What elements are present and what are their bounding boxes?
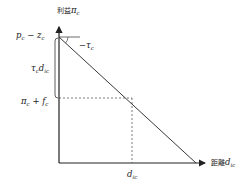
bracket <box>55 38 58 98</box>
x-axis-label: 距離dic <box>211 158 235 169</box>
x-marker-label: dic <box>127 170 137 181</box>
top-value-label: pc − zc <box>16 31 45 42</box>
bracket-label: τcdic <box>31 64 49 75</box>
slope-label: −τc <box>79 41 94 52</box>
y-axis-label: 利益πc <box>57 6 80 17</box>
slope-angle-arc <box>66 37 68 43</box>
mid-value-label: πc + fc <box>21 97 48 108</box>
profit-line <box>59 37 196 163</box>
